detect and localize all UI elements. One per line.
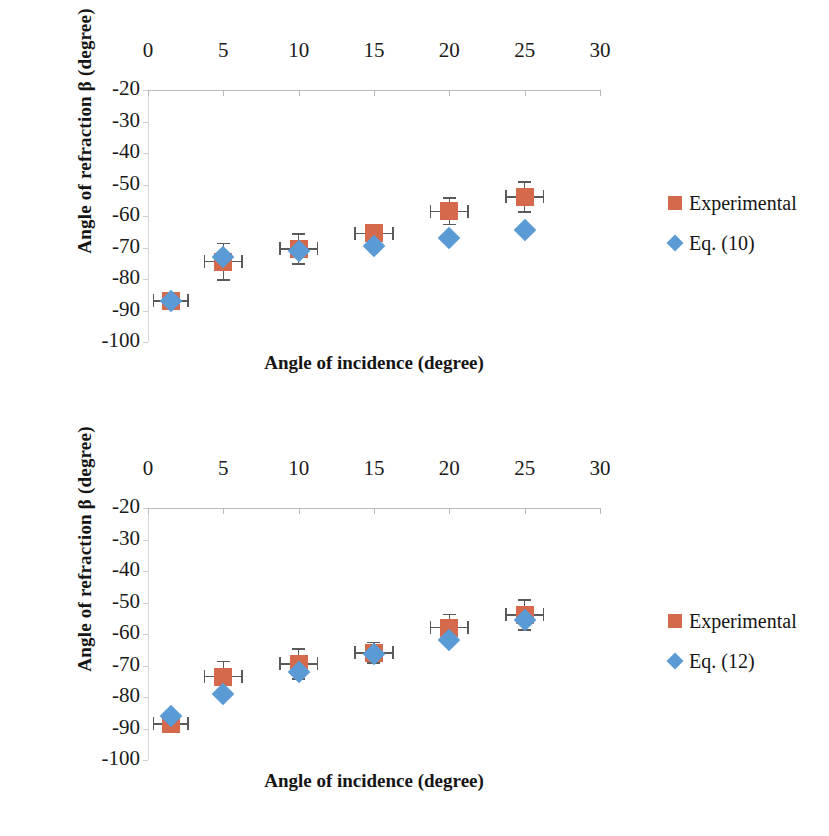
x-tick-label: 30: [577, 456, 623, 481]
x-tick-label: 30: [577, 38, 623, 63]
legend-item-experimental-bottom[interactable]: Experimental: [668, 601, 797, 641]
data-point-square: [440, 202, 458, 220]
x-axis-title-bottom: Angle of incidence (degree): [148, 770, 600, 792]
plot-area-bottom: 051015202530-20-30-40-50-60-70-80-90-100: [148, 508, 600, 760]
y-tick: [143, 760, 148, 761]
x-tick-label: 0: [125, 38, 171, 63]
y-tick: [143, 634, 148, 635]
data-point-diamond: [513, 219, 536, 242]
y-tick: [143, 311, 148, 312]
y-tick-label: -80: [90, 265, 140, 290]
chart-panel-top: Angle of refraction β (degree) Angle of …: [0, 0, 829, 418]
plot-area-top: 051015202530-20-30-40-50-60-70-80-90-100: [148, 90, 600, 342]
legend-item-equation-bottom[interactable]: Eq. (12): [668, 641, 797, 681]
x-tick: [600, 90, 601, 96]
y-tick: [143, 697, 148, 698]
y-tick: [143, 279, 148, 280]
y-axis-line-top: [148, 90, 149, 342]
y-tick-label: -60: [90, 202, 140, 227]
y-tick-label: -20: [90, 494, 140, 519]
y-tick-label: -30: [90, 108, 140, 133]
y-tick-label: -100: [90, 328, 140, 353]
y-tick-label: -80: [90, 683, 140, 708]
legend-bottom: Experimental Eq. (12): [668, 601, 797, 681]
legend-label: Experimental: [689, 192, 797, 215]
x-tick-label: 15: [351, 456, 397, 481]
x-tick: [449, 90, 450, 96]
legend-label: Eq. (10): [689, 232, 755, 255]
y-tick-label: -90: [90, 715, 140, 740]
x-tick: [223, 508, 224, 514]
x-tick: [299, 508, 300, 514]
y-tick: [143, 603, 148, 604]
y-tick-label: -20: [90, 76, 140, 101]
data-point-diamond: [212, 683, 235, 706]
y-tick-label: -40: [90, 139, 140, 164]
x-tick: [223, 90, 224, 96]
x-tick-label: 0: [125, 456, 171, 481]
x-tick: [374, 90, 375, 96]
x-tick-label: 20: [426, 456, 472, 481]
y-tick-label: -50: [90, 171, 140, 196]
legend-label: Eq. (12): [689, 650, 755, 673]
x-tick: [449, 508, 450, 514]
x-tick-label: 10: [276, 38, 322, 63]
x-tick-label: 5: [200, 456, 246, 481]
y-tick: [143, 540, 148, 541]
y-tick: [143, 248, 148, 249]
y-tick: [143, 185, 148, 186]
y-tick: [143, 122, 148, 123]
y-tick: [143, 216, 148, 217]
y-tick-label: -100: [90, 746, 140, 771]
x-tick: [525, 90, 526, 96]
x-tick: [374, 508, 375, 514]
data-point-square: [516, 188, 534, 206]
x-tick-label: 20: [426, 38, 472, 63]
x-tick: [148, 508, 149, 514]
square-marker-icon: [668, 196, 682, 210]
x-tick: [525, 508, 526, 514]
x-tick: [299, 90, 300, 96]
chart-panel-bottom: Angle of refraction β (degree) Angle of …: [0, 418, 829, 836]
y-tick: [143, 729, 148, 730]
y-tick-label: -30: [90, 526, 140, 551]
y-tick: [143, 90, 148, 91]
x-tick-label: 15: [351, 38, 397, 63]
y-tick-label: -70: [90, 234, 140, 259]
y-tick: [143, 666, 148, 667]
y-tick: [143, 508, 148, 509]
diamond-marker-icon: [667, 653, 684, 670]
y-tick-label: -40: [90, 557, 140, 582]
diamond-marker-icon: [667, 235, 684, 252]
y-tick: [143, 342, 148, 343]
x-tick-label: 25: [502, 456, 548, 481]
y-tick: [143, 153, 148, 154]
x-tick-label: 25: [502, 38, 548, 63]
x-axis-title-top: Angle of incidence (degree): [148, 352, 600, 374]
data-point-diamond: [438, 227, 461, 250]
x-tick-label: 5: [200, 38, 246, 63]
y-axis-line-bottom: [148, 508, 149, 760]
square-marker-icon: [668, 614, 682, 628]
y-tick: [143, 571, 148, 572]
y-tick-label: -90: [90, 297, 140, 322]
legend-item-experimental-top[interactable]: Experimental: [668, 183, 797, 223]
x-tick: [148, 90, 149, 96]
x-tick: [600, 508, 601, 514]
x-tick-label: 10: [276, 456, 322, 481]
y-tick-label: -50: [90, 589, 140, 614]
legend-top: Experimental Eq. (10): [668, 183, 797, 263]
legend-label: Experimental: [689, 610, 797, 633]
y-tick-label: -60: [90, 620, 140, 645]
legend-item-equation-top[interactable]: Eq. (10): [668, 223, 797, 263]
y-tick-label: -70: [90, 652, 140, 677]
